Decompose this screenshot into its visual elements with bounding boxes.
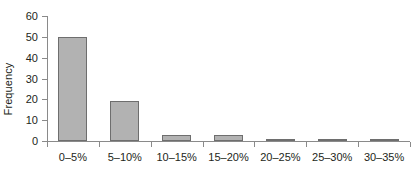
x-axis-labels: 0–5%5–10%10–15%15–20%20–25%25–30%30–35%: [0, 150, 419, 166]
bar-chart: Frequency 0102030405060 0–5%5–10%10–15%1…: [0, 0, 419, 178]
x-tick-label: 5–10%: [108, 150, 142, 164]
x-tick-label: 25–30%: [312, 150, 352, 164]
bar: [318, 139, 347, 142]
bar: [110, 101, 139, 141]
bar: [58, 37, 87, 141]
x-tick-label: 20–25%: [260, 150, 300, 164]
x-tick-label: 30–35%: [364, 150, 404, 164]
bar: [370, 139, 399, 142]
x-tick-label: 0–5%: [59, 150, 87, 164]
x-tick-label: 10–15%: [156, 150, 196, 164]
x-tick-label: 15–20%: [208, 150, 248, 164]
bar: [214, 135, 243, 141]
bar: [162, 135, 191, 141]
bar: [266, 139, 295, 142]
